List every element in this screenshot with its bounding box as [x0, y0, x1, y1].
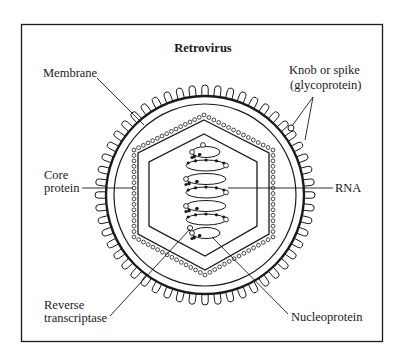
label-rt-line1: Reverse [44, 298, 85, 312]
leader-lines [82, 78, 333, 316]
label-core-line1: Core [44, 168, 69, 182]
rna-helix [184, 143, 229, 240]
label-knob-line1: Knob or spike [289, 63, 360, 77]
reverse-transcriptase-leader [110, 229, 190, 316]
diagram-title: Retrovirus [174, 41, 232, 55]
label-rt-line2: transcriptase [44, 311, 108, 325]
core-protein-beads [132, 113, 275, 277]
membrane-leader [97, 78, 144, 125]
knob-leader-2 [305, 97, 313, 140]
label-nucleoprotein: Nucleoprotein [291, 310, 363, 324]
label-membrane: Membrane [43, 66, 98, 80]
capsid-inner-hexagon [149, 134, 257, 256]
knob-marker [288, 125, 294, 131]
glycoprotein-spikes [95, 85, 315, 305]
label-core-line2: protein [44, 181, 80, 195]
label-rna: RNA [335, 181, 361, 195]
label-knob-line2: (glycoprotein) [290, 78, 362, 92]
retrovirus-diagram: Retrovirus Membrane Knob or spike (glyco… [0, 0, 402, 364]
